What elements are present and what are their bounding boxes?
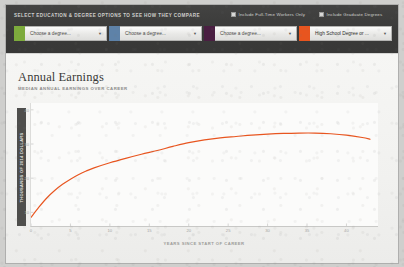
widget-frame: SELECT EDUCATION & DEGREE OPTIONS TO SEE… [6,5,398,263]
checkbox-label-full-time: Include Full-Time Workers Only [239,12,306,17]
checkbox-include-graduate-degrees[interactable]: Include Graduate Degrees [319,12,382,17]
y-axis-title: THOUSANDS OF 2014 DOLLARS [19,132,24,202]
y-axis-title-bar: THOUSANDS OF 2014 DOLLARS [17,108,26,226]
degree-dropdown-4[interactable]: High School Degree or ... ▼ [299,26,392,41]
degree-select-2-value: Choose a degree... [120,31,189,36]
degree-dropdown-row: Choose a degree... ▼ Choose a degree... … [14,26,392,41]
color-swatch-blue [109,26,120,41]
checkbox-label-graduate-degrees: Include Graduate Degrees [327,12,383,17]
x-axis-tick-label: 5 [69,228,71,233]
degree-select-1[interactable]: Choose a degree... ▼ [25,26,107,41]
x-axis-tick-label: 25 [226,228,231,233]
screenshot-root: SELECT EDUCATION & DEGREE OPTIONS TO SEE… [0,0,404,267]
line-chart-svg [31,103,378,226]
x-axis-tick-label: 35 [305,228,310,233]
y-axis-tick-label: 20 [24,176,29,181]
degree-select-4-value: High School Degree or ... [310,31,379,36]
color-swatch-purple [204,26,215,41]
checkbox-box-full-time[interactable] [231,12,236,17]
x-axis-tick-label: 0 [30,228,32,233]
y-axis-tick-label: 10 [24,210,29,215]
degree-select-2[interactable]: Choose a degree... ▼ [120,26,202,41]
degree-dropdown-1[interactable]: Choose a degree... ▼ [14,26,107,41]
chevron-down-icon[interactable]: ▼ [284,32,296,36]
y-axis-tick-label: 30 [24,142,29,147]
checkbox-include-full-time-workers-only[interactable]: Include Full-Time Workers Only [231,12,305,17]
y-axis-tick-label: 40 [24,107,29,112]
toolbar-instruction: SELECT EDUCATION & DEGREE OPTIONS TO SEE… [14,13,200,18]
color-swatch-green [14,26,25,41]
degree-select-3[interactable]: Choose a degree... ▼ [215,26,297,41]
x-axis-tick-label: 40 [344,228,349,233]
degree-select-1-value: Choose a degree... [25,31,94,36]
degree-dropdown-2[interactable]: Choose a degree... ▼ [109,26,202,41]
plot-area: 102030400510152025303540 [30,103,378,227]
color-swatch-orange [299,26,310,41]
chart-subtitle: MEDIAN ANNUAL EARNINGS OVER CAREER [18,86,128,91]
degree-dropdown-3[interactable]: Choose a degree... ▼ [204,26,297,41]
x-axis-title: YEARS SINCE START OF CAREER [30,241,378,246]
controls-toolbar: SELECT EDUCATION & DEGREE OPTIONS TO SEE… [6,5,398,53]
page-title: Annual Earnings [18,70,104,85]
chart-card: Annual Earnings MEDIAN ANNUAL EARNINGS O… [6,53,398,263]
x-axis-tick-label: 20 [186,228,191,233]
chart-line-series [31,133,370,217]
chevron-down-icon[interactable]: ▼ [189,32,201,36]
plot-wrapper: THOUSANDS OF 2014 DOLLARS 10203040051015… [16,97,388,255]
degree-select-3-value: Choose a degree... [215,31,284,36]
x-axis-tick-label: 15 [147,228,152,233]
degree-select-4[interactable]: High School Degree or ... ▼ [310,26,392,41]
x-axis-tick-label: 30 [265,228,270,233]
chevron-down-icon[interactable]: ▼ [94,32,106,36]
chevron-down-icon[interactable]: ▼ [379,32,391,36]
checkbox-box-graduate-degrees[interactable] [319,12,324,17]
x-axis-tick-label: 10 [108,228,113,233]
